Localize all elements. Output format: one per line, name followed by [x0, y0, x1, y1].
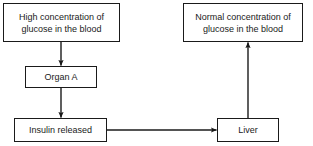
node-normal-glucose: Normal concentration of glucose in the b… — [183, 3, 303, 42]
node-high-glucose: High concentration of glucose in the blo… — [3, 3, 120, 42]
flowchart-diagram: High concentration of glucose in the blo… — [0, 0, 313, 146]
node-high-glucose-label: High concentration of glucose in the blo… — [4, 11, 119, 35]
node-insulin-released: Insulin released — [14, 118, 107, 142]
node-liver: Liver — [217, 118, 279, 142]
node-organ-a-label: Organ A — [26, 71, 96, 83]
node-organ-a: Organ A — [25, 66, 97, 88]
node-liver-label: Liver — [218, 124, 278, 136]
node-normal-glucose-label: Normal concentration of glucose in the b… — [184, 11, 302, 35]
node-insulin-released-label: Insulin released — [15, 124, 106, 136]
